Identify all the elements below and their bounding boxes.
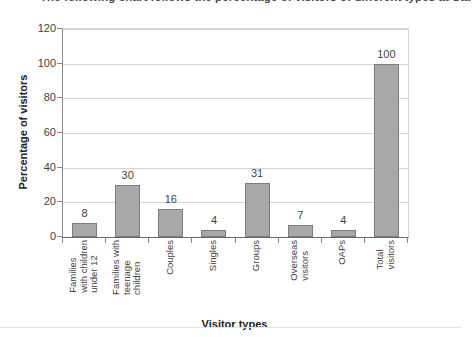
x-axis-category: Totalvisitors: [364, 238, 407, 312]
x-axis-category: Overseasvisitors: [278, 238, 321, 312]
x-tick-mark: [321, 238, 322, 243]
x-axis-tick-label: Singles: [208, 240, 219, 271]
bar-value-label: 30: [106, 170, 149, 181]
document-heading: The following chart follows the percenta…: [40, 0, 475, 3]
x-axis-tick-label: Couples: [165, 240, 176, 275]
bar[interactable]: [331, 230, 356, 237]
x-axis-tick-label-line: Families: [68, 240, 79, 293]
bar-value-label: 4: [322, 215, 365, 226]
x-tick-mark: [364, 238, 365, 243]
bar-value-label: 4: [192, 215, 235, 226]
x-axis-category: Groups: [235, 238, 278, 312]
y-axis-tick-0: 0: [50, 231, 56, 242]
x-tick-mark: [62, 238, 63, 243]
x-axis-category: OAPs: [321, 238, 364, 312]
x-axis-category: Couples: [148, 238, 191, 312]
x-axis-tick-label-line: OAPs: [337, 240, 348, 265]
bar[interactable]: [288, 225, 313, 237]
x-tick-mark: [191, 238, 192, 243]
bar-value-label: 31: [236, 168, 279, 179]
x-axis-category: Familieswith childrenunder 12: [62, 238, 105, 312]
bar-value-label: 7: [279, 210, 322, 221]
x-axis-tick-label-line: visitors: [299, 240, 310, 281]
x-axis-tick-label: OAPs: [337, 240, 348, 265]
x-axis-tick-label: Totalvisitors: [375, 240, 396, 270]
x-axis-tick-label-line: visitors: [385, 240, 396, 270]
bar-slot: 31: [236, 29, 279, 237]
x-axis-tick-label-line: with children: [78, 240, 89, 293]
bar-slot: 100: [365, 29, 408, 237]
x-axis-tick-label-line: Groups: [251, 240, 262, 271]
x-tick-mark: [148, 238, 149, 243]
x-axis-category: Singles: [191, 238, 234, 312]
x-axis-tick-label: Overseasvisitors: [289, 240, 310, 281]
bar-slot: 4: [322, 29, 365, 237]
y-axis-tick-120: 120: [38, 23, 56, 34]
y-axis-tick-40: 40: [44, 161, 56, 172]
y-axis-tick-60: 60: [44, 127, 56, 138]
x-axis-title: Visitor types: [62, 318, 407, 330]
y-axis-tick-labels: 020406080100120: [26, 28, 56, 236]
x-axis-tick-label: Families withteenagechildren: [111, 240, 143, 295]
bottom-divider: [0, 327, 461, 328]
bar-value-label: 100: [365, 49, 408, 60]
bar-slot: 16: [149, 29, 192, 237]
bar-slot: 4: [192, 29, 235, 237]
bars-group: 8301643174100: [63, 29, 408, 237]
x-axis-tick-label: Familieswith childrenunder 12: [68, 240, 100, 293]
x-axis-tick-label-line: Couples: [165, 240, 176, 275]
x-tick-mark: [278, 238, 279, 243]
bar-slot: 30: [106, 29, 149, 237]
x-axis-tick-label: Groups: [251, 240, 262, 271]
bar-value-label: 8: [63, 208, 106, 219]
bar-value-label: 16: [149, 194, 192, 205]
bar-slot: 8: [63, 29, 106, 237]
x-axis-tick-labels: Familieswith childrenunder 12Families wi…: [62, 238, 407, 312]
x-axis-category: Families withteenagechildren: [105, 238, 148, 312]
x-axis-tick-label-line: Families with: [111, 240, 122, 295]
bar-chart: Percentage of visitors 020406080100120 8…: [0, 16, 461, 316]
bar[interactable]: [201, 230, 226, 237]
bar[interactable]: [374, 64, 399, 237]
x-tick-mark: [235, 238, 236, 243]
bar[interactable]: [115, 185, 140, 237]
bar[interactable]: [72, 223, 97, 237]
bar-slot: 7: [279, 29, 322, 237]
x-tick-mark: [105, 238, 106, 243]
x-tick-mark: [407, 238, 408, 243]
y-axis-tick-100: 100: [38, 57, 56, 68]
y-axis-tick-20: 20: [44, 196, 56, 207]
plot-area: 8301643174100: [62, 28, 409, 238]
x-axis-tick-label-line: children: [132, 240, 143, 295]
x-axis-tick-label-line: under 12: [89, 240, 100, 293]
bar[interactable]: [245, 183, 270, 237]
x-axis-tick-label-line: Singles: [208, 240, 219, 271]
y-axis-tick-80: 80: [44, 92, 56, 103]
bar[interactable]: [158, 209, 183, 237]
